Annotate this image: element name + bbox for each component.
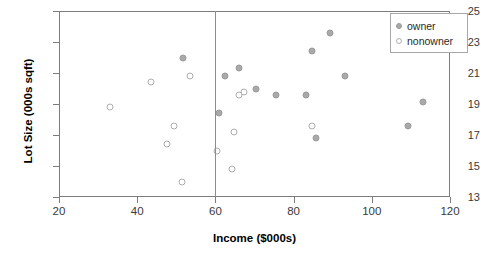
x-tick-label: 40: [107, 205, 167, 217]
data-point-owner: [273, 91, 280, 98]
data-point-owner: [235, 65, 242, 72]
x-tick-label: 120: [420, 205, 480, 217]
data-point-nonowner: [235, 91, 242, 98]
data-point-owner: [303, 91, 310, 98]
chart-legend: ownernonowner: [390, 13, 468, 53]
data-point-owner: [312, 135, 319, 142]
legend-item-label: owner: [407, 20, 436, 32]
scatter-plot-figure: Lot Size (000s sqft) Income ($000s) 1315…: [0, 0, 480, 259]
data-point-owner: [253, 85, 260, 92]
x-tick-label: 60: [185, 205, 245, 217]
y-axis-title: Lot Size (000s sqft): [22, 21, 34, 201]
vertical-reference-line: [215, 11, 216, 197]
x-tick-mark: [372, 197, 373, 203]
x-tick-mark: [450, 197, 451, 203]
data-point-nonowner: [163, 141, 170, 148]
legend-item-label: nonowner: [407, 35, 453, 47]
data-point-nonowner: [231, 128, 238, 135]
data-point-nonowner: [170, 122, 177, 129]
data-point-owner: [326, 29, 333, 36]
x-tick-label: 100: [342, 205, 402, 217]
x-tick-mark: [294, 197, 295, 203]
data-point-nonowner: [308, 122, 315, 129]
x-tick-mark: [59, 197, 60, 203]
data-point-nonowner: [147, 79, 154, 86]
data-point-nonowner: [106, 104, 113, 111]
data-point-owner: [341, 73, 348, 80]
x-tick-mark: [137, 197, 138, 203]
x-tick-label: 20: [29, 205, 89, 217]
data-point-owner: [179, 54, 186, 61]
legend-item-nonowner[interactable]: nonowner: [396, 33, 462, 48]
data-point-nonowner: [228, 166, 235, 173]
open-circle-icon: [396, 38, 402, 44]
data-point-owner: [309, 48, 316, 55]
filled-circle-icon: [396, 23, 402, 29]
legend-item-owner[interactable]: owner: [396, 18, 462, 33]
x-axis-title: Income ($000s): [59, 232, 450, 244]
data-point-owner: [419, 99, 426, 106]
x-tick-label: 80: [264, 205, 324, 217]
x-tick-mark: [215, 197, 216, 203]
data-point-owner: [404, 122, 411, 129]
data-point-owner: [216, 110, 223, 117]
data-point-nonowner: [186, 73, 193, 80]
data-point-owner: [222, 73, 229, 80]
data-point-nonowner: [179, 178, 186, 185]
